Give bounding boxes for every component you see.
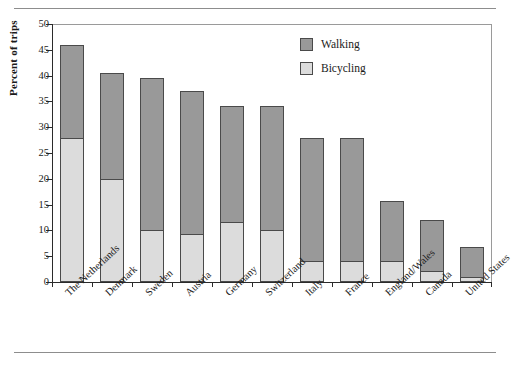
y-tick-label: 40 <box>39 69 50 82</box>
y-tick-label: 50 <box>39 17 50 30</box>
top-divider-rule <box>14 8 496 9</box>
x-tick-mark <box>491 282 492 287</box>
bar-stack[interactable] <box>260 106 284 282</box>
x-tick-mark <box>92 282 93 287</box>
plot-top-border <box>52 24 492 25</box>
x-tick-mark <box>452 282 453 287</box>
x-tick-mark <box>292 282 293 287</box>
legend-label: Bicycling <box>321 62 366 75</box>
plot-right-border <box>491 24 492 283</box>
chart-legend: WalkingBicycling <box>300 38 366 86</box>
x-tick-mark <box>412 282 413 287</box>
bar-stack[interactable] <box>380 201 404 282</box>
x-tick-mark <box>332 282 333 287</box>
y-tick-label: 35 <box>39 94 50 107</box>
bar-stack[interactable] <box>180 91 204 282</box>
x-tick-mark <box>252 282 253 287</box>
bar-stack[interactable] <box>140 78 164 282</box>
x-tick-mark <box>212 282 213 287</box>
y-tick-label: 20 <box>39 172 50 185</box>
x-tick-mark <box>172 282 173 287</box>
legend-item[interactable]: Bicycling <box>300 62 366 75</box>
bar-segment-walking[interactable] <box>260 106 284 231</box>
bar-stack[interactable] <box>60 45 84 282</box>
y-tick-label: 15 <box>39 198 50 211</box>
bar-segment-walking[interactable] <box>140 78 164 230</box>
y-axis-line <box>52 24 53 283</box>
bar-segment-walking[interactable] <box>180 91 204 234</box>
chart-plot-area: 05101520253035404550 The NetherlandsDenm… <box>52 24 492 283</box>
y-tick-label: 25 <box>39 146 50 159</box>
bar-segment-walking[interactable] <box>60 45 84 138</box>
bar-segment-walking[interactable] <box>220 106 244 222</box>
bar-segment-walking[interactable] <box>380 201 404 261</box>
y-tick-label: 10 <box>39 223 50 236</box>
y-axis-title: Percent of trips <box>7 20 19 96</box>
legend-item[interactable]: Walking <box>300 38 366 51</box>
bar-segment-bicycling[interactable] <box>60 138 84 282</box>
x-tick-mark <box>52 282 53 287</box>
y-tick-label: 30 <box>39 120 50 133</box>
bar-stack[interactable] <box>220 106 244 282</box>
y-tick-label: 5 <box>44 249 49 262</box>
legend-swatch-icon <box>300 62 313 75</box>
bar-segment-walking[interactable] <box>100 73 124 179</box>
legend-label: Walking <box>321 38 360 51</box>
bar-segment-walking[interactable] <box>340 138 364 262</box>
bottom-divider-rule <box>14 352 496 353</box>
x-tick-mark <box>132 282 133 287</box>
x-tick-mark <box>372 282 373 287</box>
bar-stack[interactable] <box>340 138 364 282</box>
y-tick-label: 45 <box>39 43 50 56</box>
bar-segment-walking[interactable] <box>300 138 324 262</box>
legend-swatch-icon <box>300 38 313 51</box>
y-tick-label: 0 <box>44 275 49 288</box>
